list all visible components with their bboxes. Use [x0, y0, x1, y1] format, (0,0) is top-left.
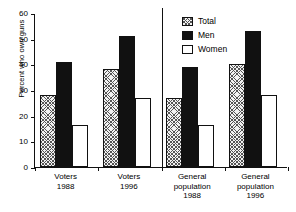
- legend-swatch-total-icon: [182, 17, 193, 26]
- y-axis-tick-label: 30: [8, 87, 28, 95]
- y-axis-tick-mark: [31, 65, 35, 66]
- x-axis-group-label: Voters 1988: [34, 172, 97, 191]
- legend-item-women: Women: [182, 42, 278, 56]
- y-axis-tick-label: 60: [8, 10, 28, 18]
- legend-label: Total: [198, 17, 216, 26]
- legend-swatch-women-icon: [182, 45, 193, 54]
- chart-legend: TotalMenWomen: [182, 14, 278, 56]
- legend-label: Women: [198, 45, 227, 54]
- y-axis-tick-mark: [31, 91, 35, 92]
- bar-women-group-2: [135, 98, 151, 167]
- legend-swatch-men-icon: [182, 31, 193, 40]
- y-axis-tick-label: 20: [8, 113, 28, 121]
- legend-item-total: Total: [182, 14, 278, 28]
- bar-total-group-2: [103, 69, 119, 167]
- bar-men-group-1: [56, 62, 72, 167]
- bar-women-group-4: [261, 95, 277, 167]
- panel-divider: [162, 8, 163, 167]
- y-axis-tick-label: 0: [8, 164, 28, 172]
- bar-women-group-1: [72, 125, 88, 167]
- bar-total-group-4: [229, 64, 245, 167]
- x-axis-group-label: Voters 1996: [97, 172, 160, 191]
- x-axis-tick-mark: [288, 167, 289, 171]
- bar-men-group-3: [182, 67, 198, 167]
- y-axis-tick-mark: [31, 117, 35, 118]
- x-axis-tick-mark: [225, 167, 226, 171]
- y-axis-tick-label: 50: [8, 36, 28, 44]
- y-axis-tick-labels: 0102030405060: [8, 0, 28, 212]
- x-axis-tick-mark: [162, 167, 163, 171]
- x-axis-tick-mark: [98, 167, 99, 171]
- y-axis-tick-label: 40: [8, 61, 28, 69]
- x-axis-tick-mark: [35, 167, 36, 171]
- y-axis-tick-mark: [31, 40, 35, 41]
- y-axis-tick-mark: [31, 14, 35, 15]
- x-axis-group-label: General population 1996: [224, 172, 287, 201]
- bar-men-group-2: [119, 36, 135, 167]
- bar-total-group-3: [166, 98, 182, 167]
- bar-total-group-1: [40, 95, 56, 167]
- y-axis-tick-mark: [31, 142, 35, 143]
- legend-label: Men: [198, 31, 215, 40]
- x-axis-group-label: General population 1988: [161, 172, 224, 201]
- legend-item-men: Men: [182, 28, 278, 42]
- y-axis-tick-label: 10: [8, 138, 28, 146]
- bar-chart: Percent who own guns 0102030405060 Total…: [0, 0, 296, 212]
- bar-women-group-3: [198, 125, 214, 167]
